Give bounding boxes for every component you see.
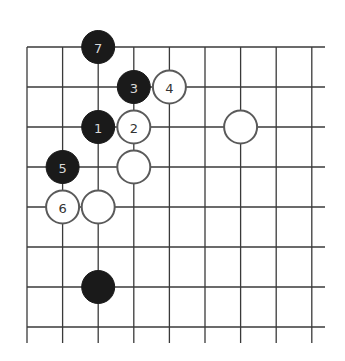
- white-stone: [117, 151, 150, 184]
- move-number-label: 3: [130, 81, 138, 96]
- black-stone-1: 1: [82, 111, 115, 144]
- white-stone: [82, 191, 115, 224]
- black-stone: [82, 271, 115, 304]
- white-stone-icon: [82, 191, 115, 224]
- white-stone-4: 4: [153, 71, 186, 104]
- black-stone-5: 5: [46, 151, 79, 184]
- white-stone-2: 2: [117, 111, 150, 144]
- white-stone-icon: [224, 111, 257, 144]
- white-stone: [224, 111, 257, 144]
- move-number-label: 5: [58, 161, 66, 176]
- move-number-label: 1: [94, 121, 102, 136]
- move-number-label: 7: [94, 41, 102, 56]
- white-stone-icon: [117, 151, 150, 184]
- black-stone-3: 3: [117, 71, 150, 104]
- move-number-label: 2: [130, 121, 138, 136]
- black-stone-7: 7: [82, 31, 115, 64]
- move-number-label: 6: [58, 201, 66, 216]
- black-stone-icon: [82, 271, 115, 304]
- move-number-label: 4: [165, 81, 173, 96]
- white-stone-6: 6: [46, 191, 79, 224]
- go-board-diagram: 7341256: [0, 0, 345, 361]
